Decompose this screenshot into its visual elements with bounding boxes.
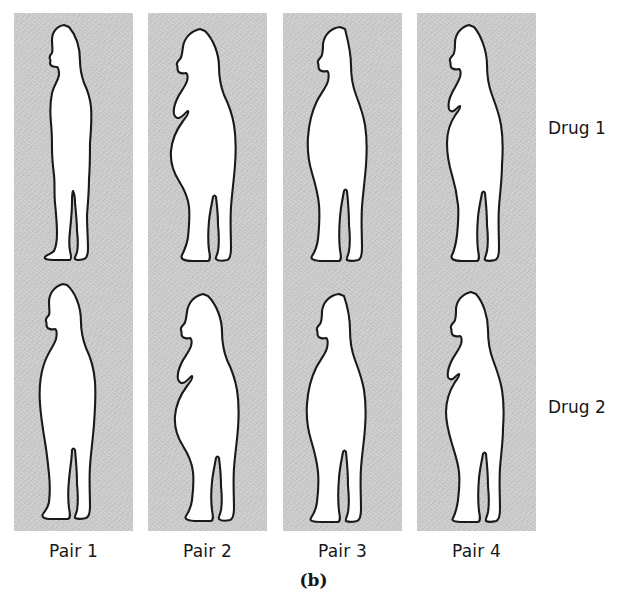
human-silhouette-medium-male-icon xyxy=(40,284,96,519)
figure-pair1-drug2 xyxy=(14,272,133,531)
row-label-drug-2: Drug 2 xyxy=(548,397,606,417)
figure-pair3-drug1 xyxy=(283,13,402,272)
human-silhouette-medium-female-icon xyxy=(446,292,504,522)
pair-label-4: Pair 4 xyxy=(417,541,536,561)
figure-pair1-drug1 xyxy=(14,13,133,272)
human-silhouette-heavy-male-icon xyxy=(307,294,366,522)
pair-label-3: Pair 3 xyxy=(283,541,402,561)
figure-b-root: Pair 1 Pair 2 Pair 3 Pair 4 Drug 1 Drug … xyxy=(0,0,627,608)
row-label-drug-1: Drug 1 xyxy=(548,118,606,138)
pair-column-3 xyxy=(283,13,402,531)
figure-pair3-drug2 xyxy=(283,272,402,531)
human-silhouette-heavy-female-icon xyxy=(175,294,239,521)
pair-column-4 xyxy=(417,13,536,531)
figure-pair2-drug1 xyxy=(148,13,267,272)
pair-column-2 xyxy=(148,13,267,531)
pair-column-1 xyxy=(14,13,133,531)
human-silhouette-heavy-male-icon xyxy=(308,27,367,261)
pair-label-2: Pair 2 xyxy=(148,541,267,561)
pair-label-1: Pair 1 xyxy=(14,541,133,561)
figure-pair4-drug2 xyxy=(417,272,536,531)
figure-pair2-drug2 xyxy=(148,272,267,531)
human-silhouette-slim-male-icon xyxy=(45,25,92,260)
subfigure-caption: (b) xyxy=(0,570,627,590)
human-silhouette-slim-female-icon xyxy=(447,25,503,261)
figure-pair4-drug1 xyxy=(417,13,536,272)
human-silhouette-heavy-female-icon xyxy=(171,29,236,261)
